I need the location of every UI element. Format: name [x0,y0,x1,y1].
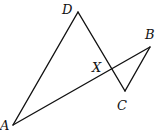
label-c: C [117,98,127,113]
segment-da [13,12,78,125]
geometry-diagram: D B X C A [0,0,159,131]
label-b: B [144,27,155,42]
segment-ba [13,47,150,125]
label-x: X [91,60,102,75]
segment-dc [78,12,125,91]
label-d: D [61,2,73,17]
label-a: A [0,118,9,131]
